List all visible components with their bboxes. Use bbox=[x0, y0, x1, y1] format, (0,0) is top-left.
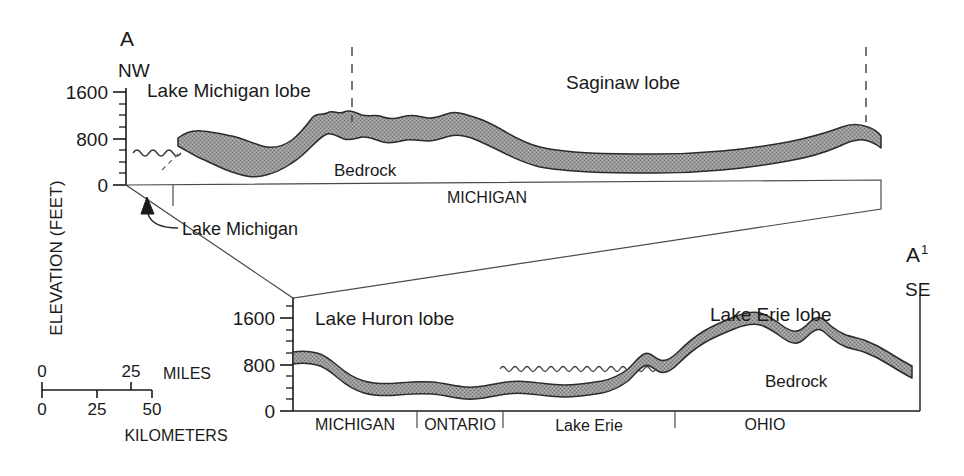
lower-lobe-label-lake-huron: Lake Huron lobe bbox=[315, 308, 454, 329]
scale-bar: 0 25 MILES 0 25 50 KILOMETERS bbox=[37, 362, 227, 444]
lower-y-tick-label-1600: 1600 bbox=[233, 308, 275, 329]
lower-region-label-lake-erie: Lake Erie bbox=[555, 417, 623, 434]
scale-label-miles-0: 0 bbox=[37, 362, 46, 381]
lower-region-label-ohio: OHIO bbox=[745, 416, 786, 433]
upper-region-label-michigan: MICHIGAN bbox=[447, 189, 527, 206]
lower-region-label-ontario: ONTARIO bbox=[424, 416, 496, 433]
upper-y-tick-label-800: 800 bbox=[76, 129, 108, 150]
elevation-axis-title: ELEVATION (FEET) bbox=[47, 180, 66, 336]
cross-section-figure: 1600 800 0 A NW Lake Michigan lobe Sagin… bbox=[0, 0, 964, 476]
upper-lobe-label-lake-michigan: Lake Michigan lobe bbox=[147, 80, 311, 101]
lower-direction-label-se: SE bbox=[905, 279, 930, 300]
upper-bedrock-label: Bedrock bbox=[334, 161, 397, 180]
scale-unit-miles: MILES bbox=[163, 365, 211, 382]
lake-michigan-water-surface bbox=[133, 150, 181, 156]
lower-region-label-michigan: MICHIGAN bbox=[315, 416, 395, 433]
scale-unit-kilometers: KILOMETERS bbox=[124, 427, 227, 444]
upper-lobe-label-saginaw: Saginaw lobe bbox=[566, 72, 680, 93]
lower-y-tick-label-0: 0 bbox=[264, 401, 275, 422]
scale-label-km-0: 0 bbox=[37, 400, 46, 419]
lake-michigan-bedrock-dashed bbox=[162, 154, 178, 170]
upper-cross-section: 1600 800 0 A NW Lake Michigan lobe Sagin… bbox=[66, 27, 881, 298]
lower-corner-label-A: A bbox=[906, 243, 920, 266]
scale-label-km-25: 25 bbox=[88, 400, 107, 419]
lower-bedrock-label: Bedrock bbox=[765, 372, 828, 391]
upper-glacial-drift-band bbox=[178, 111, 881, 177]
upper-corner-label-A: A bbox=[120, 27, 134, 50]
upper-direction-label-nw: NW bbox=[118, 60, 150, 81]
scale-label-km-50: 50 bbox=[143, 400, 162, 419]
lake-michigan-leader-label: Lake Michigan bbox=[182, 219, 298, 239]
scale-label-miles-25: 25 bbox=[122, 362, 141, 381]
upper-y-tick-label-1600: 1600 bbox=[66, 82, 108, 103]
lower-lobe-label-lake-erie: Lake Erie lobe bbox=[710, 304, 831, 325]
upper-y-tick-label-0: 0 bbox=[97, 175, 108, 196]
lower-corner-superscript: 1 bbox=[921, 242, 928, 257]
lower-y-tick-label-800: 800 bbox=[243, 355, 275, 376]
